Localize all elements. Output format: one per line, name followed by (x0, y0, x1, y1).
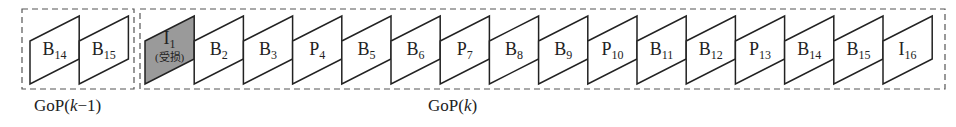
frame-B11: B11 (637, 16, 686, 84)
frame-sequence: B14B15I1(受损)B2B3P4B5B6P7B8B9P10B11B12P13… (30, 16, 932, 84)
frame-B12: B12 (686, 16, 735, 84)
gop-k-caption: GoP(k) (428, 96, 477, 116)
frame-B9: B9 (539, 16, 588, 84)
caption-tail: −1) (77, 96, 101, 115)
gop-diagram: B14B15I1(受损)B2B3P4B5B6P7B8B9P10B11B12P13… (0, 0, 956, 127)
gop-k-minus-1-caption: GoP(k−1) (34, 96, 101, 116)
frame-B6: B6 (391, 16, 440, 84)
caption-text: GoP( (428, 96, 464, 115)
frame-P13: P13 (735, 16, 784, 84)
frame-I16: I16 (883, 16, 932, 84)
caption-tail: ) (471, 96, 477, 115)
frame-P10: P10 (588, 16, 637, 84)
frame-I1: I1(受损) (145, 16, 194, 84)
frame-B3: B3 (243, 16, 292, 84)
frame-B2: B2 (194, 16, 243, 84)
damaged-note: (受损) (155, 50, 185, 64)
frame-P7: P7 (440, 16, 489, 84)
caption-text: GoP( (34, 96, 70, 115)
frame-B14: B14 (785, 16, 834, 84)
frame-B15-prev: B15 (79, 16, 128, 84)
frame-P4: P4 (293, 16, 342, 84)
frame-B15: B15 (834, 16, 883, 84)
frame-B8: B8 (489, 16, 538, 84)
frame-B5: B5 (342, 16, 391, 84)
frame-B14-prev: B14 (30, 16, 79, 84)
